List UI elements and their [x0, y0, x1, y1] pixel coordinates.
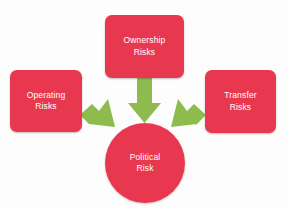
arrow-transfer-to-political [171, 99, 206, 131]
node-political-risk[interactable]: Political Risk [105, 123, 185, 203]
diagram-canvas: Ownership Risks Operating Risks Transfer… [0, 0, 287, 208]
node-political-risk-label: Political Risk [130, 152, 161, 175]
node-operating-risks-label: Operating Risks [27, 90, 66, 113]
arrow-ownership-to-political [128, 76, 161, 123]
arrow-operating-to-political [80, 99, 115, 131]
node-operating-risks[interactable]: Operating Risks [10, 70, 82, 132]
node-ownership-risks-label: Ownership Risks [124, 35, 166, 58]
node-transfer-risks[interactable]: Transfer Risks [205, 70, 276, 133]
node-ownership-risks[interactable]: Ownership Risks [105, 15, 184, 78]
node-transfer-risks-label: Transfer Risks [224, 90, 257, 113]
